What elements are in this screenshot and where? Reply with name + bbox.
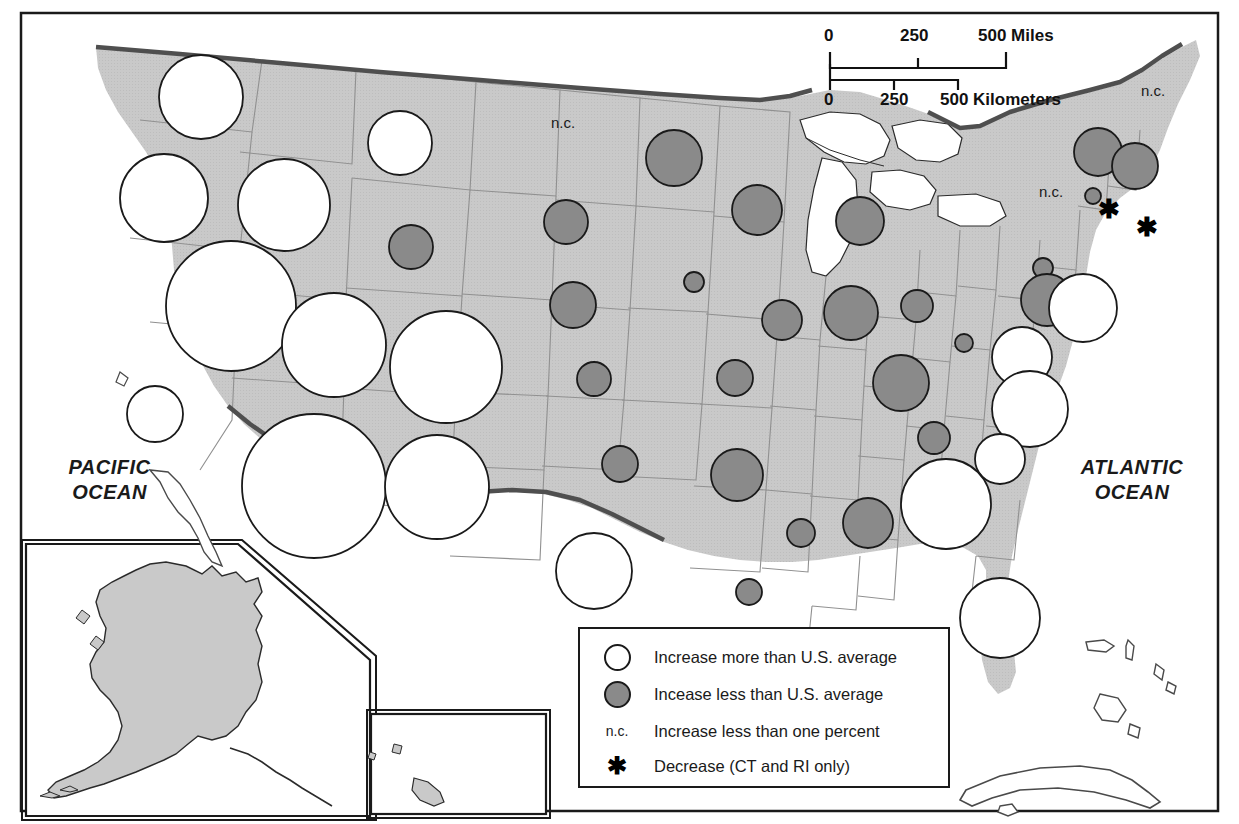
hawaii-inset bbox=[367, 710, 550, 818]
legend-symbol-circle-open bbox=[580, 644, 654, 671]
state-symbol-ks bbox=[577, 362, 611, 396]
legend-row-increase-more: Increase more than U.S. average bbox=[580, 639, 948, 675]
state-symbol-il bbox=[762, 300, 802, 340]
legend-label-nc: Increase less than one percent bbox=[654, 722, 880, 741]
circle-open-icon bbox=[604, 644, 631, 671]
star-rhode-island: ✱ bbox=[1136, 214, 1158, 240]
state-symbol-nd bbox=[544, 200, 588, 244]
legend-row-nc: n.c. Increase less than one percent bbox=[580, 713, 948, 749]
cuba-outline bbox=[960, 766, 1160, 816]
state-symbol-ia bbox=[684, 272, 704, 292]
atlantic-ocean-label: ATLANTIC OCEAN bbox=[1052, 455, 1212, 505]
state-symbol-ca bbox=[242, 414, 386, 558]
state-symbol-wi bbox=[836, 197, 884, 245]
legend-row-increase-less: Incease less than U.S. average bbox=[580, 676, 948, 712]
legend-label-increase-more: Increase more than U.S. average bbox=[654, 648, 897, 667]
scale-miles-500: 500 Miles bbox=[978, 26, 1054, 46]
state-symbol-mo bbox=[717, 360, 753, 396]
state-symbol-ne bbox=[550, 282, 596, 328]
state-symbol-sd bbox=[646, 130, 702, 186]
population-change-map: PACIFIC OCEAN ATLANTIC OCEAN n.c. n.c. n… bbox=[0, 0, 1239, 824]
legend-symbol-nc: n.c. bbox=[580, 723, 654, 739]
scale-miles-0: 0 bbox=[824, 26, 833, 46]
legend-label-decrease: Decrease (CT and RI only) bbox=[654, 757, 850, 776]
pacific-ocean-line1: PACIFIC bbox=[22, 455, 197, 480]
state-symbol-wv bbox=[955, 334, 973, 352]
state-symbol-ms bbox=[843, 498, 893, 548]
state-symbol-ar bbox=[711, 449, 763, 501]
state-symbol-az bbox=[127, 386, 183, 442]
state-symbol-vt-nh bbox=[1112, 143, 1158, 189]
state-symbol-wa bbox=[159, 55, 243, 139]
alaska-inset bbox=[22, 540, 376, 820]
circle-filled-icon bbox=[604, 681, 631, 708]
pacific-ocean-label: PACIFIC OCEAN bbox=[22, 455, 197, 505]
state-symbol-al bbox=[736, 579, 762, 605]
star-connecticut: ✱ bbox=[1098, 196, 1120, 222]
atlantic-ocean-line1: ATLANTIC bbox=[1052, 455, 1212, 480]
state-symbol-or bbox=[120, 154, 208, 242]
scale-km-250: 250 bbox=[880, 90, 908, 110]
state-symbol-ga bbox=[901, 459, 991, 549]
scale-miles-250: 250 bbox=[900, 26, 928, 46]
state-symbol-nv bbox=[166, 241, 296, 371]
state-symbol-mn bbox=[732, 185, 782, 235]
state-symbol-nm bbox=[385, 435, 489, 539]
state-symbol-tn bbox=[918, 422, 950, 454]
legend-label-increase-less: Incease less than U.S. average bbox=[654, 685, 883, 704]
nc-label-pennsylvania: n.c. bbox=[1039, 183, 1063, 200]
nc-label-maine: n.c. bbox=[1141, 82, 1165, 99]
scale-bar: 0 250 500 Miles 0 250 500 Kilometers bbox=[828, 28, 1128, 100]
state-symbol-md-de bbox=[1049, 274, 1117, 342]
state-symbol-id bbox=[238, 159, 330, 251]
legend-symbol-circle-filled bbox=[580, 681, 654, 708]
legend-row-decrease: ✱ Decrease (CT and RI only) bbox=[580, 748, 948, 784]
state-symbol-ok bbox=[602, 446, 638, 482]
state-symbol-fl bbox=[960, 578, 1040, 658]
star-icon: ✱ bbox=[607, 754, 627, 778]
nc-label-north-dakota: n.c. bbox=[551, 114, 575, 131]
state-symbol-la bbox=[787, 519, 815, 547]
state-symbol-ky bbox=[873, 355, 929, 411]
state-symbol-wy bbox=[389, 225, 433, 269]
map-legend: Increase more than U.S. average Incease … bbox=[578, 627, 950, 788]
state-symbol-in bbox=[824, 286, 878, 340]
pacific-ocean-line2: OCEAN bbox=[22, 480, 197, 505]
state-symbol-oh bbox=[901, 290, 933, 322]
atlantic-ocean-line2: OCEAN bbox=[1052, 480, 1212, 505]
legend-symbol-star: ✱ bbox=[580, 754, 654, 778]
state-symbol-tx bbox=[556, 533, 632, 609]
state-symbol-co bbox=[390, 311, 502, 423]
scale-km-500: 500 Kilometers bbox=[940, 90, 1061, 110]
scale-km-0: 0 bbox=[824, 90, 833, 110]
state-symbol-mt bbox=[368, 111, 432, 175]
state-symbol-ut bbox=[282, 293, 386, 397]
nc-icon: n.c. bbox=[606, 723, 629, 739]
caribbean-islands bbox=[1086, 640, 1176, 738]
